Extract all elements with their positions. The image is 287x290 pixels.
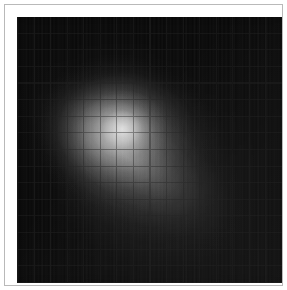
heatmap-cell — [249, 250, 266, 267]
heatmap-cell — [116, 117, 133, 134]
detector-streak-noise — [17, 17, 282, 283]
heatmap-cell — [67, 233, 84, 250]
heatmap-cell — [133, 17, 150, 34]
heatmap-cell — [34, 217, 51, 234]
heatmap-cell — [166, 183, 183, 200]
heatmap-cell — [100, 233, 117, 250]
heatmap-cell — [17, 67, 34, 84]
heatmap-cell — [183, 183, 200, 200]
heatmap-cell — [216, 233, 233, 250]
heatmap-cell — [150, 266, 167, 283]
figure-alt-text: Grayscale heatmap image of a diffuse elo… — [0, 0, 1, 1]
heatmap-cell — [17, 84, 34, 101]
heatmap-cell — [116, 84, 133, 101]
heatmap-cell — [34, 200, 51, 217]
heatmap-cell — [216, 50, 233, 67]
heatmap-cell — [67, 67, 84, 84]
heatmap-cell — [133, 183, 150, 200]
heatmap-cell — [50, 150, 67, 167]
heatmap-cell — [265, 117, 282, 134]
heatmap-cell — [249, 34, 266, 51]
heatmap-cell — [150, 183, 167, 200]
heatmap-cell — [150, 150, 167, 167]
heatmap-cell — [100, 67, 117, 84]
heatmap-cell — [232, 200, 249, 217]
heatmap-cell — [133, 250, 150, 267]
heatmap-cell — [199, 84, 216, 101]
heatmap-cell — [216, 133, 233, 150]
heatmap-cell — [150, 250, 167, 267]
heatmap-cell — [100, 100, 117, 117]
grid-overlay-light — [17, 17, 282, 283]
heatmap-cell — [50, 183, 67, 200]
heatmap-cell — [265, 67, 282, 84]
heatmap-cell — [265, 167, 282, 184]
heatmap-cell — [183, 117, 200, 134]
heatmap-cell — [216, 183, 233, 200]
heatmap-cell — [166, 17, 183, 34]
heatmap-cell — [166, 67, 183, 84]
heatmap-cell — [216, 150, 233, 167]
heatmap-cell — [67, 200, 84, 217]
heatmap-cell — [265, 217, 282, 234]
heatmap-cell — [199, 233, 216, 250]
heatmap-cell — [199, 250, 216, 267]
heatmap-cell — [116, 133, 133, 150]
heatmap-cell — [150, 117, 167, 134]
heatmap-cell — [100, 217, 117, 234]
heatmap-cell — [183, 266, 200, 283]
heatmap-cell — [83, 150, 100, 167]
heatmap-cell — [34, 233, 51, 250]
heatmap-cell — [265, 200, 282, 217]
heatmap-cell — [216, 200, 233, 217]
heatmap-cell — [34, 34, 51, 51]
heatmap-cell — [67, 34, 84, 51]
heatmap-cell — [133, 200, 150, 217]
heatmap-cell — [199, 50, 216, 67]
heatmap-cell — [166, 200, 183, 217]
heatmap-cell — [83, 67, 100, 84]
heatmap-cell — [50, 117, 67, 134]
heatmap-cell — [133, 67, 150, 84]
heatmap-cell — [216, 100, 233, 117]
heatmap-cell — [232, 133, 249, 150]
heatmap-cell — [133, 150, 150, 167]
heatmap-cell — [100, 84, 117, 101]
heatmap-cell — [83, 167, 100, 184]
heatmap-cell — [67, 100, 84, 117]
heatmap-cell — [50, 84, 67, 101]
figure-frame — [4, 4, 283, 286]
heatmap-cell — [133, 233, 150, 250]
heatmap-cell — [249, 167, 266, 184]
heatmap-plot-area[interactable] — [17, 17, 282, 283]
heatmap-cell — [150, 233, 167, 250]
heatmap-cell — [83, 133, 100, 150]
heatmap-cell — [265, 183, 282, 200]
heatmap-cell — [67, 167, 84, 184]
heatmap-cell — [166, 217, 183, 234]
heatmap-cell — [183, 250, 200, 267]
heatmap-cell — [83, 183, 100, 200]
heatmap-cell — [265, 250, 282, 267]
heatmap-cell — [183, 200, 200, 217]
heatmap-cell — [34, 50, 51, 67]
heatmap-cell — [183, 34, 200, 51]
heatmap-cell — [232, 17, 249, 34]
detector-streak-noise-lower-right — [17, 17, 282, 283]
heatmap-cell — [232, 100, 249, 117]
heatmap-cell — [232, 250, 249, 267]
heatmap-cell — [116, 17, 133, 34]
heatmap-cell — [83, 266, 100, 283]
heatmap-cell — [133, 266, 150, 283]
heatmap-cell — [17, 250, 34, 267]
heatmap-cell — [232, 50, 249, 67]
heatmap-cell — [232, 183, 249, 200]
grid-overlay-dark — [17, 17, 282, 283]
heatmap-cell — [216, 217, 233, 234]
heatmap-cell — [150, 50, 167, 67]
heatmap-cell — [199, 200, 216, 217]
heatmap-cell — [34, 167, 51, 184]
heatmap-cell — [249, 266, 266, 283]
heatmap-cell — [183, 233, 200, 250]
source-tail-glow — [17, 17, 282, 283]
